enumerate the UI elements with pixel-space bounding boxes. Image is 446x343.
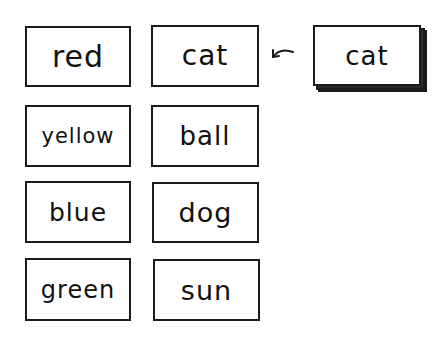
card-label: sun	[181, 277, 232, 304]
card-label: blue	[49, 200, 107, 225]
card-label: yellow	[41, 126, 114, 147]
card-dog: dog	[152, 182, 259, 243]
card-label: dog	[179, 199, 233, 226]
card-label: red	[52, 42, 104, 72]
card-red: red	[25, 26, 131, 87]
card-ball: ball	[151, 105, 259, 167]
deck-top-card: cat	[313, 25, 421, 86]
card-label: cat	[345, 43, 388, 69]
curved-arrow-left-icon	[270, 46, 296, 62]
card-green: green	[25, 258, 131, 321]
card-yellow: yellow	[25, 105, 131, 167]
card-label: green	[41, 278, 115, 302]
card-cat: cat	[151, 25, 259, 87]
card-label: ball	[180, 123, 231, 149]
card-blue: blue	[25, 181, 131, 243]
card-label: cat	[182, 42, 229, 70]
card-sun: sun	[153, 259, 260, 321]
